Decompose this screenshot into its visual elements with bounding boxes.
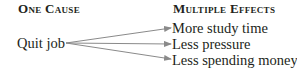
- effect-item-3: Less spending money: [172, 52, 297, 68]
- arrow-to-effect-3: [66, 43, 171, 59]
- arrow-to-effect-2: [66, 43, 171, 44]
- effect-item-1: More study time: [172, 20, 268, 36]
- effect-item-2: Less pressure: [172, 36, 251, 52]
- arrow-to-effect-1: [66, 28, 171, 43]
